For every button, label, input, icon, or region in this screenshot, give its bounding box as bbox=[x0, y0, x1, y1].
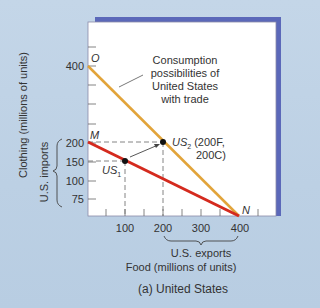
svg-text:with trade: with trade bbox=[160, 93, 209, 105]
svg-text:possibilities of: possibilities of bbox=[151, 67, 220, 79]
svg-text:100: 100 bbox=[116, 222, 134, 234]
svg-text:400: 400 bbox=[66, 60, 84, 72]
label-M: M bbox=[90, 129, 100, 141]
label-O: O bbox=[91, 52, 100, 64]
svg-text:200: 200 bbox=[66, 137, 84, 149]
chart: O M N US1 US2(200F, 200C) Consumption po… bbox=[0, 0, 293, 308]
svg-text:United States: United States bbox=[152, 80, 219, 92]
label-us2-coords: 200C) bbox=[196, 149, 226, 161]
x-tick-labels: 100 200 300 400 bbox=[116, 222, 249, 234]
exports-bracket bbox=[164, 236, 238, 245]
imports-bracket bbox=[53, 139, 62, 207]
exports-label: U.S. exports bbox=[171, 247, 232, 259]
label-us2: US2(200F, bbox=[172, 136, 225, 150]
svg-text:400: 400 bbox=[231, 222, 249, 234]
x-axis-label: Food (millions of units) bbox=[126, 261, 237, 273]
y-tick-labels: 400 200 150 100 75 bbox=[66, 60, 84, 205]
svg-text:200: 200 bbox=[154, 222, 172, 234]
label-N: N bbox=[242, 204, 250, 216]
svg-text:150: 150 bbox=[66, 156, 84, 168]
point-us2 bbox=[160, 139, 166, 145]
point-us1 bbox=[122, 158, 128, 164]
svg-text:100: 100 bbox=[66, 175, 84, 187]
y-axis-label: Clothing (millions of units) bbox=[17, 52, 29, 178]
svg-text:300: 300 bbox=[192, 222, 210, 234]
imports-label: U.S. imports bbox=[38, 141, 50, 202]
chart-title: (a) United States bbox=[138, 282, 228, 296]
svg-text:Consumption: Consumption bbox=[153, 54, 218, 66]
svg-text:75: 75 bbox=[72, 193, 84, 205]
